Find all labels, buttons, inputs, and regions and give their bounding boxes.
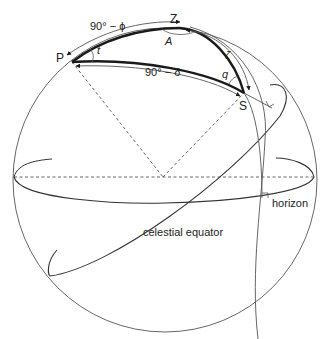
- label-pole: P: [56, 52, 64, 64]
- right-angle-equator: [266, 101, 274, 107]
- label-angle-q: q: [222, 69, 228, 80]
- radius-to-pole: [72, 62, 163, 177]
- label-celestial-equator: celestial equator: [143, 227, 223, 238]
- label-horizon: horizon: [272, 198, 308, 209]
- label-star: S: [239, 100, 247, 112]
- horizon-front-arc: [14, 158, 314, 203]
- label-zenith: Z: [170, 13, 177, 25]
- label-arc-zs: ζ: [225, 50, 230, 61]
- celestial-equator: [48, 85, 286, 276]
- radius-to-star: [163, 93, 244, 177]
- angle-arc-q: [229, 77, 238, 84]
- label-arc-pz: 90° − ϕ: [90, 21, 125, 32]
- label-arc-ps: 90° − δ: [145, 67, 180, 78]
- celestial-sphere-diagram: [0, 0, 322, 339]
- label-angle-t: t: [97, 45, 100, 56]
- horizon-back-arc: [14, 159, 52, 177]
- label-angle-a: A: [165, 36, 172, 47]
